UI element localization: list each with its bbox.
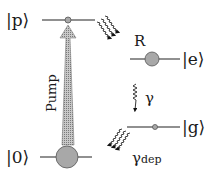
- pump-label: Pump: [44, 74, 59, 112]
- level-e-label: |e⟩: [182, 49, 204, 69]
- population-dot-g: [153, 125, 158, 130]
- level-e: |e⟩: [130, 49, 204, 69]
- decay-gamma-wavy-icon: [133, 84, 137, 110]
- energy-level-diagram: |p⟩ |e⟩ |g⟩ |0⟩ Pump R γ: [0, 0, 219, 178]
- decay-r-label: R: [134, 32, 146, 50]
- decay-r-wavy-icon: [97, 16, 118, 38]
- pump-arrow: Pump: [44, 25, 76, 145]
- dephasing-label: γdep: [132, 149, 162, 167]
- decay-gamma-label: γ: [145, 89, 154, 107]
- level-0-label: |0⟩: [6, 147, 29, 167]
- population-dot-p: [65, 17, 71, 23]
- level-0: |0⟩: [6, 146, 92, 168]
- level-g: |g⟩: [127, 117, 205, 137]
- level-p-label: |p⟩: [6, 10, 29, 30]
- level-p: |p⟩: [6, 10, 95, 30]
- dephasing-wavy-icon: [109, 129, 130, 149]
- population-dot-0: [56, 146, 78, 168]
- population-dot-e: [145, 52, 159, 66]
- level-g-label: |g⟩: [182, 117, 205, 137]
